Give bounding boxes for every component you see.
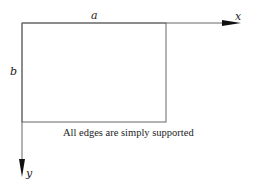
side-b-label: b (10, 65, 17, 78)
y-axis-arrow-icon (19, 159, 25, 177)
plate-rectangle (22, 23, 166, 122)
plate-diagram: a b x y All edges are simply supported (0, 0, 255, 188)
x-axis-label: x (235, 10, 242, 23)
side-a-label: a (91, 9, 98, 22)
boundary-condition-caption: All edges are simply supported (63, 127, 194, 138)
y-axis-label: y (25, 167, 33, 180)
